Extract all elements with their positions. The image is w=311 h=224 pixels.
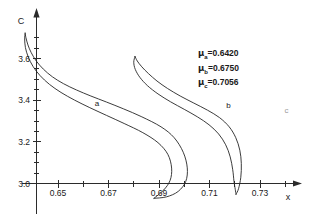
curve-a-lower — [25, 33, 172, 198]
chart-figure: 0.650.670.690.710.73 3.03.23.43.6 abc C … — [0, 0, 311, 224]
mu-value: 0.6750 — [213, 63, 239, 73]
curve-label-b: b — [226, 101, 231, 110]
y-tick-label: 3.2 — [18, 137, 30, 147]
curve-label-a: a — [95, 99, 100, 108]
x-tick-label: 0.71 — [201, 188, 218, 198]
y-axis-title: C — [18, 16, 25, 26]
curve-label-c: c — [285, 106, 289, 115]
y-tick-label: 3.4 — [18, 95, 30, 105]
y-tick-label: 3.0 — [18, 179, 30, 189]
x-axis-arrow — [293, 181, 302, 187]
y-axis-arrow — [33, 8, 39, 18]
curve-annotations: abc — [95, 99, 289, 115]
x-tick-label: 0.69 — [151, 188, 168, 198]
legend-row-c: μc=0.7056 — [198, 77, 290, 92]
mu-value: 0.7056 — [213, 77, 239, 87]
legend-row-b: μb=0.6750 — [198, 63, 290, 78]
mu-value: 0.6420 — [213, 48, 239, 58]
x-axis-title: x — [286, 192, 291, 202]
x-tick-label: 0.67 — [100, 188, 117, 198]
x-tick-label: 0.73 — [252, 188, 269, 198]
y-axis-tick-labels: 3.03.23.43.6 — [18, 54, 30, 189]
legend-box: μa=0.6420μb=0.6750μc=0.7056 — [198, 48, 290, 92]
x-tick-label: 0.65 — [50, 188, 67, 198]
legend-row-a: μa=0.6420 — [198, 48, 290, 63]
plot-canvas: 0.650.670.690.710.73 3.03.23.43.6 abc C … — [0, 0, 311, 224]
